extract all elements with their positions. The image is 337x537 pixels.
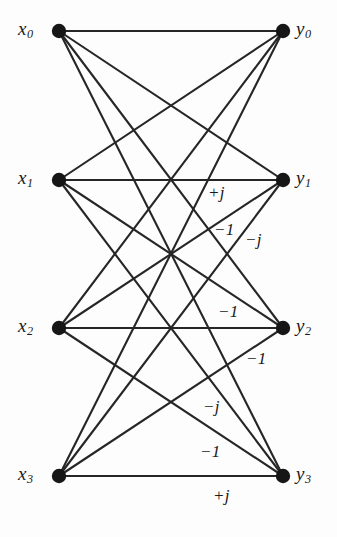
node-label-base: x [18,18,26,39]
graph-node-y1 [276,173,290,187]
node-label-base: x [18,463,26,484]
graph-canvas [0,0,337,537]
node-label-subscript: 3 [27,472,33,486]
node-label-y2: y2 [296,316,311,338]
edge-weight-label-w-x3-y3: +j [213,487,230,504]
edge-weight-label-w-x1-y2: −1 [214,221,234,238]
node-label-x2: x2 [18,316,33,338]
node-label-subscript: 0 [305,27,311,41]
graph-node-x3 [52,469,66,483]
node-label-y1: y1 [296,168,311,190]
node-label-x0: x0 [18,19,33,41]
node-label-x3: x3 [18,464,33,486]
node-label-base: y [296,167,304,188]
node-label-subscript: 2 [27,324,33,338]
node-label-subscript: 0 [27,27,33,41]
graph-node-y0 [276,24,290,38]
node-label-subscript: 1 [27,176,33,190]
node-label-base: y [296,18,304,39]
node-label-base: y [296,463,304,484]
edge-weight-label-w-x2-y3: −1 [246,350,266,367]
edge-weight-label-w-x3-y2: −1 [200,443,220,460]
node-label-subscript: 3 [305,472,311,486]
edge-weight-label-w-x1-y3: −j [245,231,262,248]
graph-node-x2 [52,321,66,335]
node-label-subscript: 2 [305,324,311,338]
edge-weight-label-w-x1-y1: +j [208,184,225,201]
edges-group [59,31,283,476]
edge-weight-label-w-x2-y1: −1 [218,303,238,320]
node-label-base: x [18,315,26,336]
graph-node-y3 [276,469,290,483]
node-label-subscript: 1 [305,176,311,190]
graph-node-y2 [276,321,290,335]
node-label-y0: y0 [296,19,311,41]
node-label-base: y [296,315,304,336]
edge-weight-label-w-x3-y1: −j [203,398,220,415]
graph-node-x0 [52,24,66,38]
graph-node-x1 [52,173,66,187]
node-label-base: x [18,167,26,188]
bipartite-graph-figure: x0x1x2x3y0y1y2y3 +j−1−j−1−1−j−1+j [0,0,337,537]
node-label-x1: x1 [18,168,33,190]
node-label-y3: y3 [296,464,311,486]
